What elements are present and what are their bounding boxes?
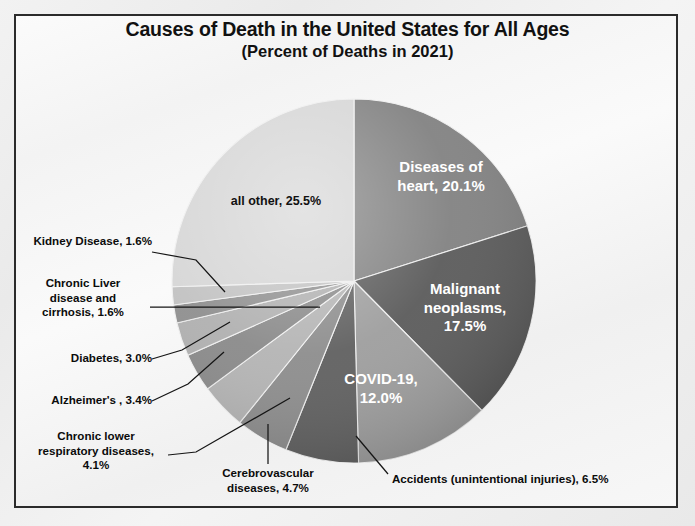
slice-label-line: Malignant — [380, 280, 550, 299]
slice-label-line: 17.5% — [380, 317, 550, 336]
callout-line: Alzheimer's , 3.4% — [8, 393, 152, 408]
callout-line: diseases, 4.7% — [186, 481, 350, 496]
slice-label-line: all other, 25.5% — [196, 194, 356, 209]
callout-chronic-lower-respiratory: Chronic lower respiratory diseases, 4.1% — [24, 429, 168, 473]
slice-label-line: COVID-19, — [306, 370, 456, 389]
callout-line: disease and — [14, 291, 152, 306]
callout-line: Diabetes, 3.0% — [12, 351, 152, 366]
callout-alzheimers: Alzheimer's , 3.4% — [8, 393, 152, 408]
callout-kidney-disease: Kidney Disease, 1.6% — [10, 234, 152, 249]
slice-label-all-other: all other, 25.5% — [196, 194, 356, 209]
slice-label-malignant-neoplasms: Malignant neoplasms, 17.5% — [380, 280, 550, 336]
slice-label-diseases-of-heart: Diseases of heart, 20.1% — [356, 158, 526, 195]
slice-label-line: heart, 20.1% — [356, 177, 526, 196]
slice-label-line: 12.0% — [306, 389, 456, 408]
callout-line: Cerebrovascular — [186, 466, 350, 481]
pie-slice — [172, 99, 354, 287]
callout-line: Kidney Disease, 1.6% — [10, 234, 152, 249]
slice-label-line: neoplasms, — [380, 299, 550, 318]
callout-chronic-liver-disease: Chronic Liver disease and cirrhosis, 1.6… — [14, 276, 152, 320]
slice-label-line: Diseases of — [356, 158, 526, 177]
slice-label-covid-19: COVID-19, 12.0% — [306, 370, 456, 407]
callout-line: Chronic lower — [24, 429, 168, 444]
callout-accidents: Accidents (unintentional injuries), 6.5% — [392, 472, 682, 487]
callout-line: Accidents (unintentional injuries), 6.5% — [392, 472, 682, 487]
callout-line: 4.1% — [24, 458, 168, 473]
pie-chart-figure: Causes of Death in the United States for… — [0, 0, 695, 526]
callout-line: respiratory diseases, — [24, 444, 168, 459]
callout-line: Chronic Liver — [14, 276, 152, 291]
callout-line: cirrhosis, 1.6% — [14, 305, 152, 320]
callout-diabetes: Diabetes, 3.0% — [12, 351, 152, 366]
callout-cerebrovascular-diseases: Cerebrovascular diseases, 4.7% — [186, 466, 350, 495]
